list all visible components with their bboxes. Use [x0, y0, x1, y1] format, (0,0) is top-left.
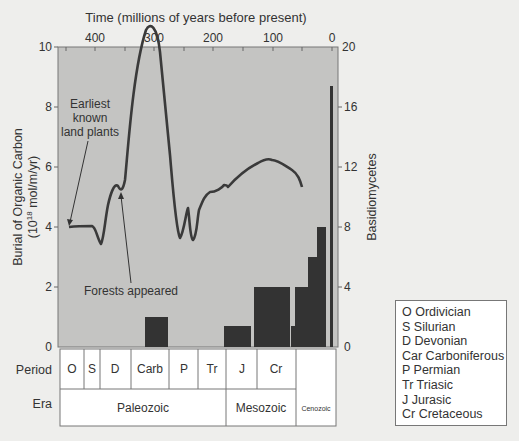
period-cell: Tr [207, 362, 218, 376]
legend-item: Cr Cretaceous [402, 407, 500, 422]
legend-item: Tr Triasic [402, 378, 500, 393]
period-cell: Carb [137, 362, 163, 376]
svg-text:known: known [73, 111, 108, 125]
x-tick-label: 400 [85, 31, 105, 45]
legend-item: Car Carboniferous [402, 349, 500, 364]
era-cell: Cenozoic [301, 405, 331, 412]
era-row-label: Era [33, 397, 53, 411]
svg-text:Earliest: Earliest [70, 97, 111, 111]
y-tick-label: 0 [45, 340, 52, 354]
x-tick-label: 300 [144, 31, 164, 45]
y-tick-label: 4 [45, 220, 52, 234]
legend-item: P Permian [402, 363, 500, 378]
y-right-axis-label: Basidiomycetes [365, 153, 379, 241]
period-cell: O [67, 362, 76, 376]
y2-tick-label: 16 [344, 100, 358, 114]
svg-text:Burial of Organic Carbon: Burial of Organic Carbon [11, 128, 25, 266]
period-cell: P [180, 362, 188, 376]
svg-text:(1018 mol/m/yr): (1018 mol/m/yr) [25, 156, 40, 239]
y2-tick-label: 8 [344, 220, 351, 234]
period-cell: S [88, 362, 96, 376]
x-tick-label: 200 [203, 31, 223, 45]
y2-tick-label: 0 [344, 340, 351, 354]
legend-item: O Ordivician [402, 305, 500, 320]
y2-tick-label: 20 [342, 40, 356, 54]
x-tick-label: 100 [263, 31, 283, 45]
legend-item: J Jurasic [402, 393, 500, 408]
period-cell: Cr [270, 362, 283, 376]
legend-item: S Silurian [402, 320, 500, 335]
y2-tick-label: 12 [344, 160, 358, 174]
era-cell: Mesozoic [236, 401, 287, 415]
x-axis-title: Time (millions of years before present) [85, 10, 306, 25]
x-tick-label: 0 [329, 31, 336, 45]
y2-tick-label: 4 [344, 280, 351, 294]
y-tick-label: 2 [45, 280, 52, 294]
y-left-axis-label: Burial of Organic Carbon (1018 mol/m/yr) [11, 128, 40, 266]
period-cell: D [111, 362, 120, 376]
period-cell: J [239, 362, 245, 376]
geologic-timescale: Period Era O S D Carb P Tr J Cr Paleozoi… [16, 349, 336, 426]
svg-text:land plants: land plants [61, 125, 119, 139]
period-row-label: Period [16, 363, 52, 377]
y-left-ticks: 10 8 6 4 2 0 [39, 40, 58, 354]
legend-item: D Devonian [402, 334, 500, 349]
y-tick-label: 6 [45, 160, 52, 174]
svg-text:Forests appeared: Forests appeared [84, 284, 178, 298]
y-tick-label: 10 [39, 40, 53, 54]
y-tick-label: 8 [45, 100, 52, 114]
x-tick-labels: 400 300 200 100 0 [85, 31, 336, 45]
y-right-ticks: 20 16 12 8 4 0 [338, 40, 358, 354]
period-legend: O Ordivician S Silurian D Devonian Car C… [395, 300, 507, 426]
era-cell: Paleozoic [117, 401, 169, 415]
